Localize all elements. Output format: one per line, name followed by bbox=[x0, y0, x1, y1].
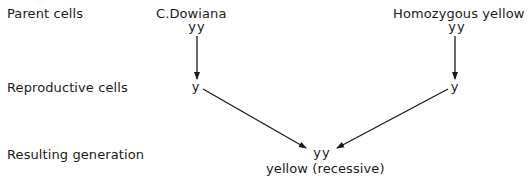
arrow-left-gamete-to-offspring bbox=[203, 89, 306, 148]
inheritance-arrows bbox=[0, 0, 528, 187]
arrow-right-gamete-to-offspring bbox=[337, 89, 448, 148]
